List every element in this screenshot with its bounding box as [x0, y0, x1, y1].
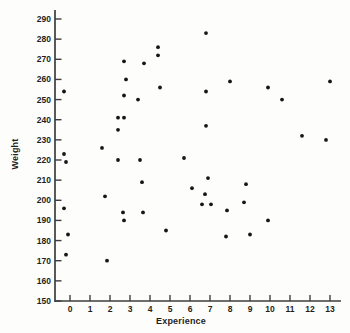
- x-axis-title: Experience: [156, 316, 206, 326]
- data-point: [300, 134, 304, 138]
- y-tick-label: 170: [37, 256, 51, 266]
- data-point: [182, 156, 186, 160]
- y-tick-label: 260: [37, 74, 51, 84]
- data-point: [200, 202, 204, 206]
- data-point: [266, 219, 270, 223]
- x-tick-label: 13: [325, 304, 335, 314]
- data-point: [248, 233, 252, 237]
- axes: [55, 10, 341, 302]
- x-tick-label: 7: [208, 304, 213, 314]
- x-tick-label: 10: [265, 304, 275, 314]
- data-point: [122, 219, 126, 223]
- data-point: [100, 146, 104, 150]
- data-point: [204, 31, 208, 35]
- data-point: [116, 158, 120, 162]
- data-point: [228, 80, 232, 84]
- x-tick-label: 3: [128, 304, 133, 314]
- y-tick-label: 220: [37, 155, 51, 165]
- data-point: [280, 98, 284, 102]
- scatter-figure: 1501601701801902002102202302402502602702…: [0, 0, 350, 333]
- data-point: [156, 45, 160, 49]
- data-point: [204, 90, 208, 94]
- data-point: [266, 86, 270, 90]
- x-tick-label: 5: [168, 304, 173, 314]
- x-tick-label: 12: [305, 304, 315, 314]
- data-point: [64, 160, 68, 164]
- data-point: [121, 211, 125, 215]
- y-tick-label: 150: [37, 296, 51, 306]
- data-point: [209, 202, 213, 206]
- y-tick-label: 230: [37, 135, 51, 145]
- y-tick-label: 200: [37, 195, 51, 205]
- data-point: [190, 186, 194, 190]
- data-point: [116, 116, 120, 120]
- y-tick-label: 270: [37, 54, 51, 64]
- data-point: [158, 86, 162, 90]
- data-point: [122, 59, 126, 63]
- y-tick-label: 290: [37, 14, 51, 24]
- data-points: [62, 31, 332, 262]
- x-tick-label: 8: [228, 304, 233, 314]
- y-tick-label: 280: [37, 34, 51, 44]
- data-point: [64, 253, 68, 257]
- data-point: [203, 192, 207, 196]
- x-tick-label: 9: [248, 304, 253, 314]
- x-tick-label: 2: [108, 304, 113, 314]
- tick-labels: 1501601701801902002102202302402502602702…: [37, 14, 335, 314]
- data-point: [122, 94, 126, 98]
- data-point: [140, 180, 144, 184]
- y-tick-label: 210: [37, 175, 51, 185]
- scatter-plot: 1501601701801902002102202302402502602702…: [0, 0, 350, 333]
- x-tick-label: 4: [148, 304, 153, 314]
- y-tick-label: 190: [37, 215, 51, 225]
- data-point: [206, 176, 210, 180]
- y-tick-label: 250: [37, 95, 51, 105]
- y-tick-label: 240: [37, 115, 51, 125]
- data-point: [225, 209, 229, 213]
- data-point: [124, 78, 128, 82]
- y-axis-title: Weight: [10, 138, 20, 169]
- data-point: [116, 128, 120, 132]
- x-tick-label: 0: [68, 304, 73, 314]
- data-point: [164, 229, 168, 233]
- data-point: [138, 158, 142, 162]
- data-point: [324, 138, 328, 142]
- data-point: [244, 182, 248, 186]
- data-point: [122, 116, 126, 120]
- data-point: [204, 124, 208, 128]
- x-tick-label: 6: [188, 304, 193, 314]
- data-point: [66, 233, 70, 237]
- data-point: [156, 53, 160, 57]
- data-point: [141, 211, 145, 215]
- data-point: [103, 194, 107, 198]
- data-point: [136, 98, 140, 102]
- data-point: [328, 80, 332, 84]
- y-tick-label: 180: [37, 236, 51, 246]
- data-point: [142, 61, 146, 65]
- data-point: [62, 90, 66, 94]
- data-point: [105, 259, 109, 263]
- data-point: [224, 235, 228, 239]
- data-point: [62, 206, 66, 210]
- y-tick-label: 160: [37, 276, 51, 286]
- data-point: [242, 200, 246, 204]
- x-tick-label: 11: [286, 304, 295, 314]
- x-tick-label: 1: [88, 304, 93, 314]
- data-point: [62, 152, 66, 156]
